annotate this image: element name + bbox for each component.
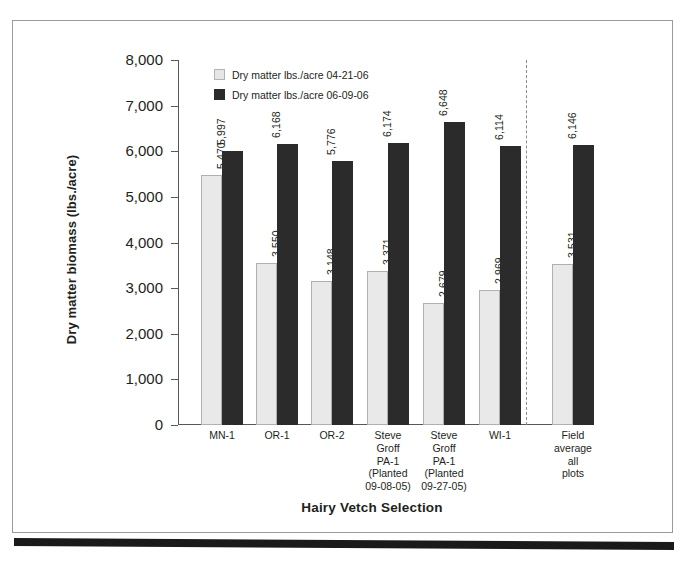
bar: [201, 175, 222, 425]
y-axis-tick-label: 6,000: [99, 142, 163, 159]
x-axis-category-label: Fieldaverageallplots: [540, 429, 606, 480]
bar: [277, 144, 298, 425]
category-label-line: WI-1: [467, 429, 533, 442]
y-axis-tick: [171, 60, 178, 61]
bar-group: 5,4705,997: [201, 60, 243, 425]
bar: [444, 122, 465, 425]
group-separator-line: [526, 60, 527, 425]
bar: [479, 290, 500, 425]
bar: [367, 271, 388, 425]
category-label-line: average: [540, 442, 606, 455]
y-axis-tick-label: 5,000: [99, 188, 163, 205]
bar-value-label: 6,146: [566, 112, 578, 139]
bar-group: 2,9696,114: [479, 60, 521, 425]
x-axis-title: Hairy Vetch Selection: [178, 500, 566, 515]
bar: [256, 263, 277, 425]
y-axis-tick-label: 4,000: [99, 234, 163, 251]
y-axis-tick: [171, 288, 178, 289]
bar-value-label: 6,648: [437, 89, 449, 116]
y-axis-tick: [171, 243, 178, 244]
bar: [573, 145, 594, 425]
y-axis-tick: [171, 197, 178, 198]
y-axis-tick-label: 1,000: [99, 370, 163, 387]
x-axis-category-labels: MN-1OR-1OR-2SteveGroffPA-1(Planted09-08-…: [178, 429, 567, 497]
category-label-line: Field: [540, 429, 606, 442]
bar: [388, 143, 409, 425]
bar-value-label: 6,168: [270, 111, 282, 138]
y-axis-tick: [171, 334, 178, 335]
y-axis-title: Dry matter biomass (lbs./acre): [64, 120, 79, 380]
bar-group: 3,5316,146: [552, 60, 594, 425]
bar: [311, 281, 332, 425]
category-label-line: Groff: [411, 442, 477, 455]
bar-group: 3,1485,776: [311, 60, 353, 425]
y-axis-tick-label: 3,000: [99, 279, 163, 296]
bar: [423, 303, 444, 425]
category-label-line: (Planted: [411, 467, 477, 480]
y-axis-tick-label: 2,000: [99, 325, 163, 342]
bar-value-label: 5,997: [215, 119, 227, 146]
plot-area: 5,4705,9973,5506,1683,1485,7763,3716,174…: [178, 60, 567, 425]
category-label-line: 09-27-05): [411, 480, 477, 493]
bar-value-label: 5,776: [325, 129, 337, 156]
y-axis-tick: [171, 379, 178, 380]
bar: [500, 146, 521, 425]
bar-group: 3,3716,174: [367, 60, 409, 425]
bar-group: 2,6796,648: [423, 60, 465, 425]
bar-chart: Dry matter biomass (lbs./acre) Hairy Vet…: [0, 0, 694, 561]
y-axis-tick-label: 7,000: [99, 97, 163, 114]
bar: [552, 264, 573, 425]
y-axis-tick: [171, 425, 178, 426]
category-label-line: PA-1: [411, 455, 477, 468]
bar-value-label: 6,114: [493, 114, 505, 140]
y-axis-tick: [171, 151, 178, 152]
y-axis-tick-label: 0: [99, 416, 163, 433]
y-axis-tick-label: 8,000: [99, 51, 163, 68]
bar-value-label: 6,174: [381, 111, 393, 138]
category-label-line: all: [540, 455, 606, 468]
category-label-line: plots: [540, 467, 606, 480]
bar: [222, 151, 243, 425]
bar: [332, 161, 353, 425]
x-axis-category-label: WI-1: [467, 429, 533, 442]
y-axis-tick: [171, 106, 178, 107]
bar-group: 3,5506,168: [256, 60, 298, 425]
